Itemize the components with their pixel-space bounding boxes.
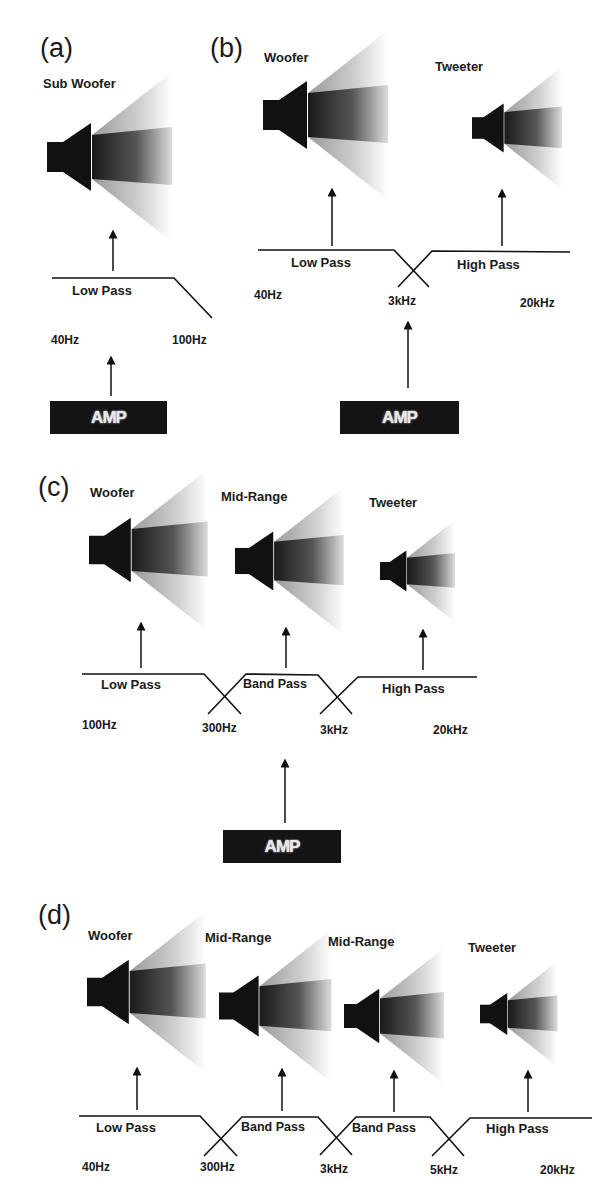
sub-woofer-speaker-icon xyxy=(47,72,172,242)
amp-block: AMP xyxy=(223,830,341,863)
tweeter-label: Tweeter xyxy=(468,940,516,955)
high-pass-label: High Pass xyxy=(486,1121,549,1136)
freq-label: 20kHz xyxy=(540,1163,575,1177)
panel-b-label: (b) xyxy=(210,33,243,64)
mid-range-speaker-icon xyxy=(344,948,444,1084)
panel-b-graphics xyxy=(258,30,570,388)
freq-label: 300Hz xyxy=(200,1160,235,1174)
freq-label: 20kHz xyxy=(433,723,468,737)
freq-label: 20kHz xyxy=(520,296,555,310)
panel-c-graphics xyxy=(82,469,477,823)
low-pass-label: Low Pass xyxy=(291,255,351,270)
high-pass-label: High Pass xyxy=(382,681,445,696)
freq-label: 40Hz xyxy=(82,1160,110,1174)
freq-label: 40Hz xyxy=(51,333,79,347)
mid-range-label: Mid-Range xyxy=(205,930,271,945)
sub-woofer-label: Sub Woofer xyxy=(43,76,116,91)
freq-label: 5kHz xyxy=(430,1163,458,1177)
panel-a-label: (a) xyxy=(40,33,73,64)
band-pass-label: Band Pass xyxy=(243,677,307,691)
freq-label: 3kHz xyxy=(320,723,348,737)
freq-label: 3kHz xyxy=(320,1162,348,1176)
panel-c-label: (c) xyxy=(38,472,69,503)
low-pass-label: Low Pass xyxy=(101,677,161,692)
mid-range-label: Mid-Range xyxy=(328,934,394,949)
woofer-label: Woofer xyxy=(90,485,135,500)
woofer-label: Woofer xyxy=(88,928,133,943)
freq-label: 40Hz xyxy=(254,288,282,302)
mid-range-label: Mid-Range xyxy=(221,489,287,504)
high-pass-label: High Pass xyxy=(457,257,520,272)
freq-label: 300Hz xyxy=(202,721,237,735)
tweeter-label: Tweeter xyxy=(369,495,417,510)
tweeter-speaker-icon xyxy=(472,67,562,189)
band-pass-label: Band Pass xyxy=(352,1121,416,1135)
panel-a-graphics xyxy=(47,72,212,396)
panel-d-label: (d) xyxy=(38,900,71,931)
band-pass-label: Band Pass xyxy=(241,1120,305,1134)
tweeter-speaker-icon xyxy=(480,961,558,1066)
freq-label: 3kHz xyxy=(388,294,416,308)
mid-range-speaker-icon xyxy=(219,930,332,1083)
mid-range-speaker-icon xyxy=(235,487,344,635)
freq-label: 100Hz xyxy=(82,718,117,732)
freq-label: 100Hz xyxy=(172,333,207,347)
amp-block: AMP xyxy=(340,401,459,434)
tweeter-label: Tweeter xyxy=(435,59,483,74)
amp-block: AMP xyxy=(50,401,167,434)
woofer-label: Woofer xyxy=(264,50,309,65)
tweeter-speaker-icon xyxy=(380,520,455,622)
low-pass-label: Low Pass xyxy=(72,283,132,298)
diagram-graphics xyxy=(0,0,601,1178)
low-pass-label: Low Pass xyxy=(96,1120,156,1135)
